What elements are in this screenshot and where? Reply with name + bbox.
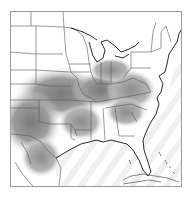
map-canvas [11, 12, 181, 186]
map-frame [10, 11, 182, 187]
